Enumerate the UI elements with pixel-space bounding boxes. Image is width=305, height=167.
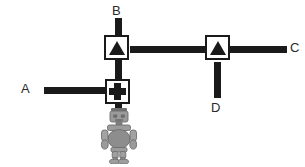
endpoint-label-d: D xyxy=(211,101,220,114)
triangle-up-icon xyxy=(210,41,226,55)
endpoint-label-b: B xyxy=(112,4,121,17)
pipe-segment-c xyxy=(230,46,287,53)
valve-box-lower[interactable] xyxy=(105,79,130,104)
valve-box-upper-right[interactable] xyxy=(205,35,230,60)
endpoint-label-c: C xyxy=(290,41,299,54)
endpoint-label-a: A xyxy=(21,82,30,95)
pipe-segment-crossbar xyxy=(130,46,206,53)
pipe-segment-d xyxy=(214,62,221,98)
pipe-segment-a xyxy=(44,87,108,94)
valve-box-upper-left[interactable] xyxy=(104,35,129,60)
robot-figure xyxy=(95,108,143,164)
plus-icon xyxy=(109,83,126,100)
triangle-up-icon xyxy=(109,41,125,55)
diagram-canvas: A B C D xyxy=(0,0,305,167)
